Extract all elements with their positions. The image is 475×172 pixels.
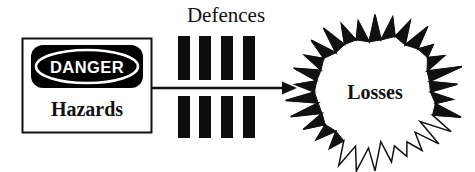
losses-spike	[381, 17, 395, 40]
defence-bar-4-top	[243, 36, 255, 80]
defence-bar-4-bottom	[243, 96, 255, 138]
defence-bar-1-bottom	[178, 96, 190, 138]
hazard-group: DANGER Hazards	[23, 39, 152, 133]
diagram-canvas: DANGER Hazards Defences	[0, 0, 475, 172]
hazards-caption: Hazards	[51, 98, 123, 120]
defence-bar-2-bottom	[199, 96, 211, 138]
losses-label: Losses	[347, 81, 403, 103]
losses-spike	[356, 21, 369, 42]
losses-spike	[294, 68, 321, 81]
losses-spike	[369, 15, 381, 42]
losses-spike	[304, 55, 323, 70]
losses-spike	[291, 103, 322, 117]
defences-label: Defences	[187, 3, 265, 27]
defence-bar-2-top	[199, 36, 211, 80]
defence-bar-3-bottom	[221, 96, 233, 138]
losses-spike	[433, 104, 461, 118]
defences-group: Defences	[178, 3, 265, 138]
hazard-to-losses-arrow	[152, 82, 297, 95]
defence-bar-3-top	[221, 36, 233, 80]
defence-bar-1-top	[178, 36, 190, 80]
barrier-diagram: DANGER Hazards Defences	[0, 0, 475, 172]
losses-spike	[286, 92, 318, 103]
danger-sign-label: DANGER	[50, 58, 124, 76]
arrow-head	[282, 82, 297, 95]
losses-group: Losses	[286, 15, 462, 171]
losses-spike	[427, 67, 462, 82]
